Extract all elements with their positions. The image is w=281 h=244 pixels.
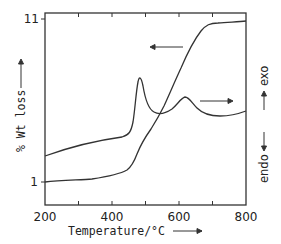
x-axis-title: Temperature/°C bbox=[68, 224, 165, 238]
y-axis-title-right-exo: exo bbox=[257, 66, 271, 86]
endo-arrow-icon bbox=[262, 132, 267, 151]
x-axis-arrow-icon bbox=[173, 229, 202, 234]
y-axis-title-left: % Wt loss bbox=[14, 90, 28, 152]
x-tick-label: 600 bbox=[168, 210, 191, 224]
x-tick-label: 400 bbox=[101, 210, 124, 224]
y-tick-label: 11 bbox=[24, 12, 39, 26]
exo-arrow-icon bbox=[262, 91, 267, 110]
y-tick-label: 1 bbox=[30, 175, 38, 189]
dta-series-arrow-icon bbox=[200, 99, 233, 104]
x-tick-label: 200 bbox=[34, 210, 57, 224]
dta-curve bbox=[45, 78, 246, 156]
y-axis-title-right-endo: endo bbox=[257, 154, 271, 183]
tg-series-arrow-icon bbox=[150, 45, 183, 50]
y-axis-arrow-icon bbox=[19, 59, 24, 88]
plot-frame bbox=[45, 13, 246, 205]
chart: 200 400 600 800 1 11 Temperature/°C % Wt… bbox=[0, 0, 281, 244]
x-tick-label: 800 bbox=[235, 210, 258, 224]
